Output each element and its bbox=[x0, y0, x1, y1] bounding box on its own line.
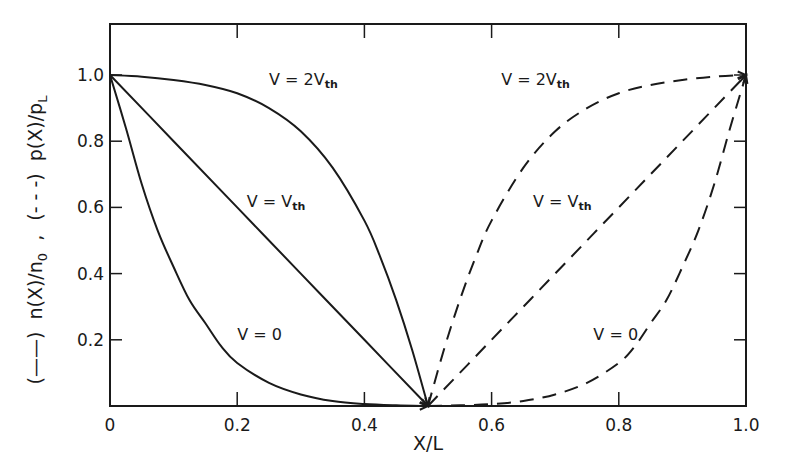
y-title-dashed-quantity: p(X)/p bbox=[24, 103, 46, 161]
y-title-separator: , bbox=[24, 235, 46, 241]
curve-label: V = 0 bbox=[593, 325, 638, 344]
plot-border bbox=[110, 24, 746, 406]
y-tick-label: 0.8 bbox=[77, 131, 104, 151]
y-title-dashed-sub: L bbox=[35, 95, 50, 103]
dashed-curve-5 bbox=[428, 75, 746, 406]
x-tick-label: 0.2 bbox=[224, 415, 251, 435]
curve-label: V = 0 bbox=[237, 325, 282, 344]
x-tick-label: 0.6 bbox=[478, 415, 505, 435]
solid-curve-1 bbox=[110, 75, 428, 406]
svg-text:(——) n(X)/n0: (——) n(X)/n0 , (- - -) p(X)/pL bbox=[24, 95, 51, 385]
y-title-solid-quantity: n(X)/n bbox=[24, 261, 46, 319]
x-tick-label: 0 bbox=[105, 415, 116, 435]
line-chart: 00.20.40.60.81.00.20.40.60.81.0 V = 0V =… bbox=[0, 0, 791, 467]
y-title-dashed-marker: (- - -) bbox=[24, 173, 46, 220]
y-tick-label: 1.0 bbox=[77, 65, 104, 85]
curve-labels: V = 0V = VthV = 2VthV = 0V = VthV = 2Vth bbox=[237, 70, 638, 344]
y-tick-label: 0.2 bbox=[77, 330, 104, 350]
y-axis-title: (——) n(X)/n0 , (- - -) p(X)/pL bbox=[24, 95, 51, 385]
y-tick-label: 0.6 bbox=[77, 197, 104, 217]
y-tick-label: 0.4 bbox=[77, 264, 104, 284]
dashed-curve-4 bbox=[428, 75, 746, 406]
x-tick-label: 1.0 bbox=[732, 415, 759, 435]
x-tick-label: 0.4 bbox=[351, 415, 378, 435]
chart: 00.20.40.60.81.00.20.40.60.81.0 V = 0V =… bbox=[0, 0, 791, 467]
curve-label: V = Vth bbox=[533, 192, 592, 213]
plot-frame bbox=[110, 24, 746, 406]
dashed-curve-3 bbox=[428, 75, 746, 406]
y-title-solid-marker: (——) bbox=[24, 332, 46, 385]
x-axis-title: X/L bbox=[413, 432, 443, 454]
y-title-solid-sub: 0 bbox=[35, 253, 50, 261]
curve-label: V = 2Vth bbox=[501, 70, 570, 91]
x-tick-label: 0.8 bbox=[605, 415, 632, 435]
curve-label: V = Vth bbox=[247, 192, 306, 213]
curves bbox=[110, 72, 747, 410]
curve-label: V = 2Vth bbox=[269, 70, 338, 91]
